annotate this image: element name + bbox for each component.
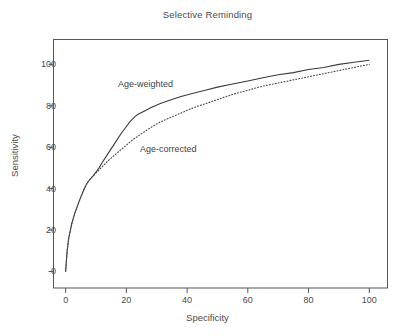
plot-frame — [54, 40, 388, 289]
x-axis-ticks — [66, 288, 370, 293]
x-tick-label: 80 — [304, 295, 314, 305]
series-line-age-corrected — [66, 64, 370, 271]
series-line-age-weighted — [66, 60, 370, 271]
x-tick-label: 60 — [243, 295, 253, 305]
y-axis-ticks — [49, 64, 54, 271]
y-axis-title: Sensitivity — [9, 111, 20, 201]
y-tick-label: 80 — [46, 101, 56, 111]
chart-figure: Selective Reminding 020406080100 0204060… — [0, 0, 415, 336]
y-tick-label: 40 — [46, 184, 56, 194]
x-tick-label: 20 — [121, 295, 131, 305]
series-annotation-age-corrected: Age-corrected — [140, 144, 197, 154]
x-tick-label: 40 — [182, 295, 192, 305]
y-tick-label: 60 — [46, 142, 56, 152]
y-tick-label: 100 — [41, 59, 56, 69]
y-tick-label: 0 — [51, 266, 56, 276]
y-tick-label: 20 — [46, 225, 56, 235]
series-annotation-age-weighted: Age-weighted — [118, 79, 173, 89]
plot-area — [0, 0, 415, 336]
x-tick-label: 0 — [63, 295, 68, 305]
x-axis-title: Specificity — [0, 312, 415, 323]
x-tick-label: 100 — [362, 295, 377, 305]
